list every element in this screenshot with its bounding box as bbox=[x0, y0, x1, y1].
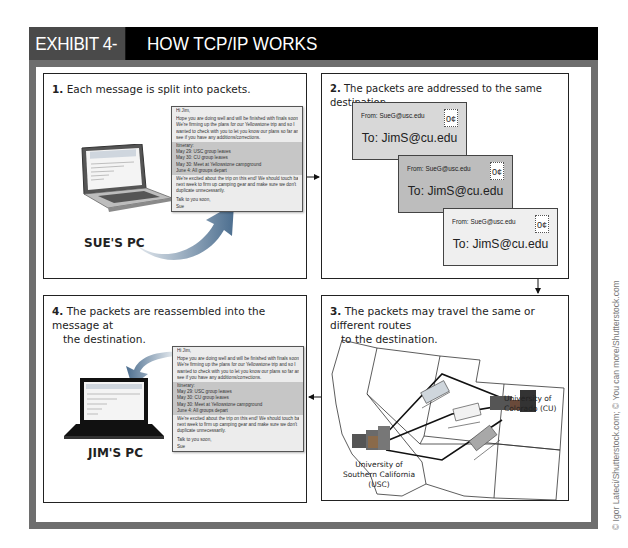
envelope-to: To: JimS@cu.edu bbox=[405, 183, 507, 198]
step-4-panel: 4. The packets are reassembled into the … bbox=[43, 295, 307, 503]
message-line: wanted to check with you to let you know… bbox=[177, 369, 299, 375]
message-itinerary: Itinerary: May 29: USC group leaves May … bbox=[173, 382, 303, 415]
message-line: We're firming up the plans for our Yello… bbox=[177, 362, 299, 368]
step-1-panel: 1. Each message is split into packets. bbox=[43, 73, 307, 279]
diagram-area: 1. Each message is split into packets. bbox=[36, 67, 591, 522]
laptop-icon bbox=[62, 376, 167, 441]
message-line: duplicate unnecessarily. bbox=[176, 188, 298, 194]
message-signature: Sue bbox=[176, 204, 298, 210]
step-1-title: 1. Each message is split into packets. bbox=[52, 82, 300, 96]
exhibit-title: HOW TCP/IP WORKS bbox=[147, 27, 317, 60]
exhibit-label: EXHIBIT 4-15 bbox=[29, 27, 125, 60]
stamp-icon: 0¢ bbox=[444, 109, 458, 127]
step-text-continued: the destination. bbox=[52, 333, 146, 345]
packet-envelope-2: From: SueG@usc.edu 0¢ To: JimS@cu.edu bbox=[398, 155, 513, 213]
packet-envelope-1: From: SueG@usc.edu 0¢ To: JimS@cu.edu bbox=[352, 102, 467, 160]
step-number: 3. bbox=[330, 305, 341, 317]
message-signature: Sue bbox=[177, 444, 299, 450]
destination-label: University of Colorado (CU) bbox=[504, 394, 557, 414]
step-number: 2. bbox=[330, 83, 341, 94]
envelope-to: To: JimS@cu.edu bbox=[359, 130, 461, 145]
message-line: wanted to check with you to let you know… bbox=[176, 129, 298, 135]
step-3-panel: 3. The packets may travel the same or di… bbox=[321, 295, 569, 501]
origin-label-line: Southern California bbox=[334, 470, 424, 480]
message-closing: Talk to you soon, bbox=[176, 197, 298, 203]
origin-label: University of Southern California (USC) bbox=[334, 460, 424, 490]
exhibit-header: EXHIBIT 4-15 HOW TCP/IP WORKS bbox=[29, 27, 598, 60]
message-closing: Talk to you soon, bbox=[177, 437, 299, 443]
envelope-from: From: SueG@usc.edu bbox=[452, 217, 516, 226]
packet-envelope-3: From: SueG@usc.edu 0¢ To: JimS@cu.edu bbox=[443, 208, 558, 266]
message-line: June 4: All groups depart bbox=[176, 168, 298, 174]
message-greeting: Hi Jim, bbox=[177, 348, 299, 354]
message-preview: Hi Jim, Hope you are doing well and will… bbox=[171, 106, 303, 212]
envelope-to: To: JimS@cu.edu bbox=[450, 236, 552, 251]
step-text: Each message is split into packets. bbox=[67, 83, 251, 95]
message-body-bottom: We're excited about the trip on this end… bbox=[173, 415, 303, 451]
message-itinerary: Itinerary: May 29: USC group leaves May … bbox=[172, 142, 302, 175]
step-2-panel: 2. The packets are addressed to the same… bbox=[321, 73, 569, 279]
destination-label-line: University of bbox=[504, 394, 557, 404]
step-number: 1. bbox=[52, 83, 63, 95]
step-text: The packets may travel the same or diffe… bbox=[330, 305, 535, 331]
image-credit: © Igor Lateci/Shutterstock.com; © You ca… bbox=[611, 280, 621, 530]
message-body-bottom: We're excited about the trip on this end… bbox=[172, 175, 302, 211]
message-body-top: Hi Jim, Hope you are doing well and will… bbox=[172, 107, 302, 142]
sender-pc-label: SUE'S PC bbox=[84, 236, 145, 250]
message-line: see if you have any additions/correction… bbox=[176, 135, 298, 141]
stamp-icon: 0¢ bbox=[535, 215, 549, 233]
envelope-from: From: SueG@usc.edu bbox=[407, 164, 471, 173]
origin-label-line: (USC) bbox=[334, 480, 424, 490]
step-4-title: 4. The packets are reassembled into the … bbox=[52, 304, 300, 346]
message-line: duplicate unnecessarily. bbox=[177, 428, 299, 434]
recipient-pc-label: JIM'S PC bbox=[88, 446, 143, 460]
step-number: 4. bbox=[52, 305, 63, 317]
stamp-icon: 0¢ bbox=[490, 162, 504, 180]
message-line: We're firming up the plans for our Yello… bbox=[176, 122, 298, 128]
message-line: June 4: All groups depart bbox=[177, 408, 299, 414]
origin-label-line: University of bbox=[334, 460, 424, 470]
message-preview: Hi Jim, Hope you are doing well and will… bbox=[172, 346, 304, 452]
exhibit-frame: EXHIBIT 4-15 HOW TCP/IP WORKS 1. Each me… bbox=[29, 27, 598, 529]
envelope-from: From: SueG@usc.edu bbox=[361, 111, 425, 120]
usc-building-icon bbox=[352, 426, 390, 450]
step-text: The packets are reassembled into the mes… bbox=[52, 305, 265, 331]
destination-label-line: Colorado (CU) bbox=[504, 404, 557, 414]
message-line: see if you have any additions/correction… bbox=[177, 375, 299, 381]
message-body-top: Hi Jim, Hope you are doing well and will… bbox=[173, 347, 303, 382]
message-greeting: Hi Jim, bbox=[176, 108, 298, 114]
